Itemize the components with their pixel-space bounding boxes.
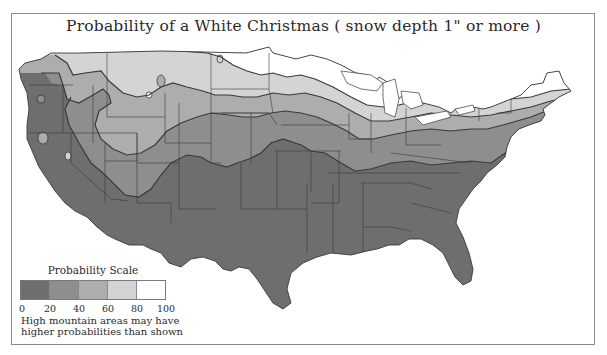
- swatch-80-100: [137, 281, 165, 299]
- tick-20: 20: [44, 303, 56, 314]
- swatch-40-60: [79, 281, 108, 299]
- swatch-60-80: [108, 281, 137, 299]
- tick-0: 0: [19, 303, 25, 314]
- probability-scale-bar: [20, 280, 166, 300]
- legend-title: Probability Scale: [16, 264, 170, 276]
- tick-80: 80: [131, 303, 143, 314]
- mountain-note-line1: High mountain areas may have: [21, 316, 170, 326]
- swatch-0-20: [21, 281, 50, 299]
- probability-legend: Probability Scale 0 20 40 60 80 100 High…: [20, 264, 170, 337]
- scale-ticks: 0 20 40 60 80 100: [20, 303, 170, 315]
- tick-60: 60: [102, 303, 114, 314]
- tick-40: 40: [73, 303, 85, 314]
- mountain-note-line2: higher probabilities than shown: [21, 327, 170, 337]
- tick-100: 100: [157, 303, 175, 314]
- swatch-20-40: [50, 281, 79, 299]
